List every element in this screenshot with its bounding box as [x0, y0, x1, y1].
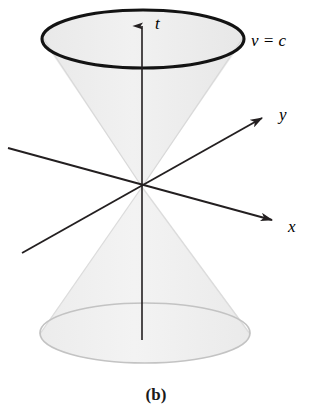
y-axis-label: y: [277, 105, 287, 124]
past-light-cone: [40, 187, 250, 363]
light-cone-diagram: t v = c y x (b): [0, 0, 312, 409]
light-cone-figure: t v = c y x (b): [0, 0, 312, 409]
speed-condition-label: v = c: [251, 31, 287, 50]
future-cone-body: [42, 10, 244, 187]
figure-caption: (b): [146, 385, 167, 404]
past-cone-body: [40, 187, 250, 363]
future-light-cone: [42, 10, 244, 187]
x-axis-label: x: [287, 217, 296, 236]
